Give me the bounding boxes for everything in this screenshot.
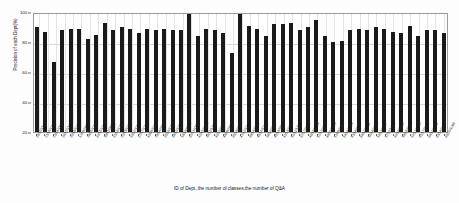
x-tick: 38/10/1107 [264, 134, 268, 182]
bar [247, 26, 251, 133]
x-tick: 36/11/1265 [204, 134, 208, 182]
x-tick: 27/17/1209 [136, 134, 140, 182]
x-tick: 45/19/0938 [272, 134, 276, 182]
x-tick: 55/18/1268 [366, 134, 370, 182]
y-tick-label: 60 [22, 71, 27, 75]
x-tick: 39/14/1021 [247, 134, 251, 182]
bar [331, 42, 335, 132]
bar [204, 29, 208, 133]
x-tick: 60/19/1056 [392, 134, 396, 182]
bar [374, 27, 378, 132]
bar [213, 30, 217, 132]
x-tick: 31/18/1281 [111, 134, 115, 182]
x-tick: 41/13/1288 [281, 134, 285, 182]
bar [264, 36, 268, 132]
bar [281, 24, 285, 132]
bar [43, 32, 47, 133]
x-tick: 34/10/1316 [170, 134, 174, 182]
x-tick: 22/13/1092 [119, 134, 123, 182]
x-tick: 65/20/1099 [443, 134, 447, 182]
y-tick-label: 20 [22, 131, 27, 135]
y-tick-label: 80 [22, 41, 27, 45]
x-tick: 32/13/1154 [187, 134, 191, 182]
bar [255, 29, 259, 133]
x-tick: 49/20/1329 [324, 134, 328, 182]
y-tick-mark [28, 133, 31, 134]
x-tick: 63/14/1312 [434, 134, 438, 182]
bar [94, 35, 98, 133]
bar [111, 30, 115, 132]
bar [348, 30, 352, 132]
x-tick: 21/16/1206 [43, 134, 47, 182]
x-tick: 26/12/1136 [60, 134, 64, 182]
x-tick: 43/09/1009 [145, 134, 149, 182]
bar [298, 30, 302, 132]
x-tick: 64/10/1186 [426, 134, 430, 182]
bar [340, 41, 344, 133]
bar [35, 27, 39, 132]
bar [128, 29, 132, 133]
bar [391, 32, 395, 133]
bar [69, 29, 73, 133]
x-tick: 17/09/0818 [77, 134, 81, 182]
bar [323, 36, 327, 132]
bar [60, 30, 64, 132]
bar [382, 29, 386, 133]
x-tick: 56/10/0911 [358, 134, 362, 182]
x-tick: 40/20/1298 [213, 134, 217, 182]
plot-area [33, 13, 448, 133]
bar-series [34, 14, 447, 132]
bar [289, 23, 293, 133]
bar [103, 23, 107, 133]
bar [162, 29, 166, 133]
bar [399, 33, 403, 132]
bar [272, 24, 276, 132]
bar [238, 13, 242, 132]
bar [425, 30, 429, 132]
x-tick: 54/16/1234 [341, 134, 345, 182]
x-tick: 37/17/1352 [298, 134, 302, 182]
bar [306, 27, 310, 132]
x-tick: 18/19/0852 [179, 134, 183, 182]
bar-chart-figure: Precision of each Dept(%) 20406080100 28… [0, 0, 459, 203]
x-tick: 59/15/1228 [400, 134, 404, 182]
y-tick-mark [28, 43, 31, 44]
bar [230, 53, 234, 133]
x-tick: 24/20/1255 [85, 134, 89, 182]
bar [187, 13, 191, 132]
bar [120, 27, 124, 132]
bar [179, 30, 183, 132]
x-tick: 47/12/1342 [238, 134, 242, 182]
bar [137, 33, 141, 132]
bar [196, 36, 200, 132]
x-tick: 33/12/1348 [128, 134, 132, 182]
x-tick: 52/12/1173 [315, 134, 319, 182]
bar [154, 30, 158, 132]
x-tick: 44/09/0879 [221, 134, 225, 182]
bar [442, 33, 446, 132]
x-tick: 53/14/1305 [349, 134, 353, 182]
bar [416, 36, 420, 132]
y-tick-label: 100 [20, 11, 27, 15]
y-tick-mark [28, 13, 31, 14]
bar [314, 20, 318, 133]
y-tick-mark [28, 103, 31, 104]
bar [365, 30, 369, 132]
x-tick: 35/18/1193 [230, 134, 234, 182]
x-tick: 29/14/0926 [153, 134, 157, 182]
y-axis-tick-labels: 20406080100 [0, 13, 31, 133]
bar [86, 39, 90, 132]
y-tick-label: 40 [22, 101, 27, 105]
bar [145, 29, 149, 133]
x-tick: 51/09/1062 [332, 134, 336, 182]
x-tick: 46/16/1246 [255, 134, 259, 182]
bar [221, 33, 225, 132]
x-axis-tick-labels: 28/10/110321/16/120623/14/118026/12/1136… [33, 134, 448, 182]
x-tick: 61/17/0983 [417, 134, 421, 182]
x-tick: 58/13/1147 [375, 134, 379, 182]
bar [433, 30, 437, 132]
y-tick-mark [28, 73, 31, 74]
x-tick: 20/18/1022 [68, 134, 72, 182]
bar [408, 26, 412, 133]
x-tick: 30/15/1307 [94, 134, 98, 182]
